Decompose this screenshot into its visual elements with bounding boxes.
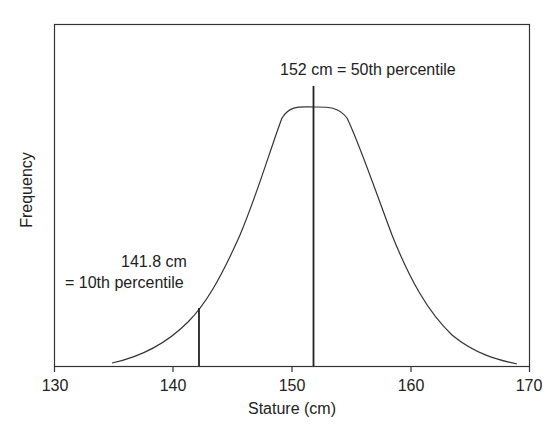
x-axis-tick-labels: 130 140 150 160 170 bbox=[42, 377, 543, 394]
tick-label-150: 150 bbox=[279, 377, 306, 394]
x-axis-label: Stature (cm) bbox=[248, 400, 336, 417]
p50-annotation: 152 cm = 50th percentile bbox=[280, 61, 456, 78]
tick-label-130: 130 bbox=[42, 377, 69, 394]
chart-canvas: 130 140 150 160 170 Stature (cm) Frequen… bbox=[0, 0, 559, 441]
distribution-curve bbox=[112, 107, 517, 364]
y-axis-label: Frequency bbox=[18, 152, 35, 228]
tick-label-170: 170 bbox=[516, 377, 543, 394]
tick-label-160: 160 bbox=[398, 377, 425, 394]
tick-label-140: 140 bbox=[160, 377, 187, 394]
p10-annotation-line2: = 10th percentile bbox=[65, 274, 184, 291]
p10-annotation-line1: 141.8 cm bbox=[121, 253, 187, 270]
